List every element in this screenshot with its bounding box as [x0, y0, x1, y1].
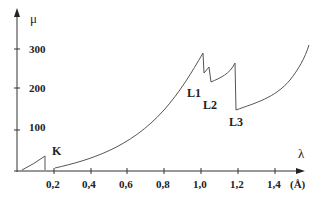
- x-tick-label-1-0: 1,0: [193, 178, 207, 190]
- x-tick-label-0-6: 0,6: [119, 178, 133, 190]
- x-axis-label: λ: [298, 146, 305, 161]
- x-tick-label-0-4: 0,4: [82, 178, 96, 190]
- absorption-chart: 300 200 100 0,2 0,4 0,6 0,8 1,0 1,2 1,4 …: [0, 0, 326, 198]
- y-axis-label: μ: [30, 11, 37, 26]
- edge-label-l3: L3: [229, 115, 243, 129]
- absorption-curve: [22, 45, 309, 170]
- edge-label-k: K: [52, 144, 62, 158]
- x-tick-label-1-2: 1,2: [230, 178, 244, 190]
- edge-label-l2: L2: [203, 98, 217, 112]
- y-tick-label-300: 300: [29, 43, 46, 55]
- x-tick-label-1-4: 1,4: [267, 178, 281, 190]
- x-tick-label-0-8: 0,8: [156, 178, 170, 190]
- y-tick-label-200: 200: [29, 82, 46, 94]
- x-axis-arrow-icon: [296, 168, 305, 174]
- x-tick-label-0-2: 0,2: [46, 178, 60, 190]
- x-axis-unit: (Å): [290, 178, 306, 191]
- y-tick-label-100: 100: [29, 121, 46, 133]
- edge-label-l1: L1: [187, 86, 201, 100]
- y-axis-arrow-icon: [14, 8, 20, 17]
